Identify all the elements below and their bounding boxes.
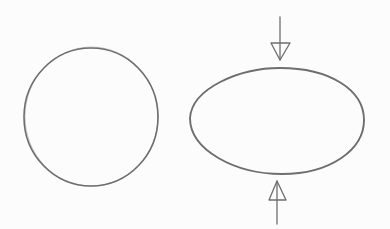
squashed-ellipse-shape <box>190 68 364 174</box>
diagram-canvas <box>0 0 390 229</box>
bottom-arrow-icon <box>269 181 286 224</box>
circle-shape <box>24 47 158 186</box>
sketch-svg <box>0 0 390 229</box>
top-arrow-icon <box>271 17 290 60</box>
